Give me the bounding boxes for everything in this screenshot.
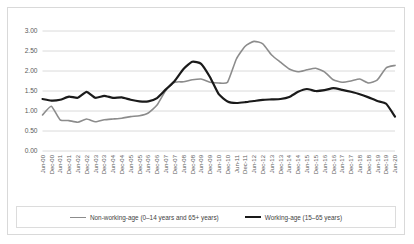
x-tick-label: Dec-01	[66, 154, 72, 174]
chart-container: 0.000.501.001.502.002.503.00 Jun-00Dec-0…	[0, 0, 414, 244]
x-tick-label: Jun-13	[269, 154, 275, 173]
x-tick-label: Jun-02	[75, 154, 81, 173]
data-series-group	[43, 41, 396, 122]
x-tick-label: Dec-02	[84, 154, 90, 174]
legend-line-swatch-icon	[245, 216, 261, 218]
x-tick-label: Dec-17	[348, 154, 354, 174]
x-tick-label: Jun-04	[110, 154, 116, 173]
x-tick-label: Jun-20	[392, 154, 398, 173]
x-tick-label: Dec-19	[383, 154, 389, 174]
x-tick-label: Jun-14	[286, 154, 292, 173]
series-line	[43, 41, 396, 122]
y-tick-label: 0.00	[25, 147, 38, 154]
x-tick-label: Dec-13	[278, 154, 284, 174]
x-tick-label: Dec-15	[313, 154, 319, 174]
legend-item-working-age: Working-age (15–65 years)	[245, 214, 342, 221]
x-tick-label: Jun-01	[57, 154, 63, 173]
x-tick-label: Dec-11	[242, 154, 248, 174]
x-tick-label: Jun-11	[234, 154, 240, 173]
x-tick-label: Jun-07	[163, 154, 169, 173]
x-tick-label: Jun-06	[145, 154, 151, 173]
y-tick-label: 0.50	[25, 127, 38, 134]
x-tick-label: Jun-16	[322, 154, 328, 173]
y-tick-label: 2.50	[25, 47, 38, 54]
x-tick-label: Jun-09	[198, 154, 204, 173]
x-tick-label: Dec-07	[172, 154, 178, 174]
legend-item-non-working-age: Non-working-age (0–14 years and 65+ year…	[70, 214, 219, 221]
x-tick-label: Jun-05	[128, 154, 134, 173]
gridlines-group	[43, 31, 396, 151]
y-tick-label: 1.50	[25, 87, 38, 94]
x-tick-label: Jun-18	[357, 154, 363, 173]
series-line	[43, 62, 396, 117]
x-tick-label: Jun-10	[216, 154, 222, 173]
legend-line-swatch-icon	[70, 217, 86, 218]
x-tick-label: Dec-09	[207, 154, 213, 174]
x-tick-label: Dec-18	[366, 154, 372, 174]
legend-label-working-age: Working-age (15–65 years)	[265, 214, 342, 221]
x-tick-label: Jun-03	[93, 154, 99, 173]
x-tick-label: Jun-00	[40, 154, 46, 173]
y-tick-label: 1.00	[25, 107, 38, 114]
x-tick-label: Jun-17	[339, 154, 345, 173]
x-tick-label: Jun-19	[375, 154, 381, 173]
x-tick-label: Dec-00	[49, 154, 55, 174]
x-tick-label: Dec-14	[295, 154, 301, 174]
x-tick-label: Dec-12	[260, 154, 266, 174]
x-tick-label: Dec-16	[331, 154, 337, 174]
x-tick-label: Dec-08	[190, 154, 196, 174]
y-tick-label: 2.00	[25, 67, 38, 74]
y-tick-label: 3.00	[25, 27, 38, 34]
x-tick-label: Dec-04	[119, 154, 125, 174]
x-tick-label: Dec-05	[137, 154, 143, 174]
x-tick-label: Dec-06	[154, 154, 160, 174]
y-axis-tick-labels: 0.000.501.001.502.002.503.00	[25, 27, 38, 154]
x-tick-label: Dec-03	[101, 154, 107, 174]
chart-legend: Non-working-age (0–14 years and 65+ year…	[16, 206, 396, 228]
x-tick-label: Dec-10	[225, 154, 231, 174]
x-tick-label: Jun-12	[251, 154, 257, 173]
x-tick-label: Jun-15	[304, 154, 310, 173]
x-axis-tick-labels: Jun-00Dec-00Jun-01Dec-01Jun-02Dec-02Jun-…	[40, 154, 399, 174]
x-tick-label: Jun-08	[181, 154, 187, 173]
legend-label-non-working-age: Non-working-age (0–14 years and 65+ year…	[90, 214, 219, 221]
